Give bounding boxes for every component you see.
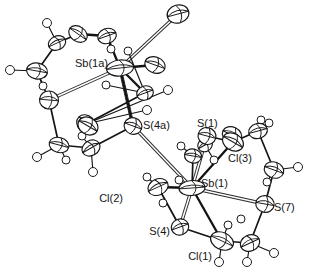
atom-label-s4: S(4)	[149, 225, 170, 237]
ortep-structure-diagram: Sb(1a)S(4a)S(1)Cl(3)Sb(1)S(7)Cl(2)S(4)Cl…	[0, 0, 312, 279]
atom-label-s7: S(7)	[274, 201, 295, 213]
hydrogen-atom	[263, 178, 271, 186]
atom-label-s1: S(1)	[197, 117, 218, 129]
hydrogen-atom	[294, 163, 303, 172]
hydrogen-atom	[62, 156, 70, 164]
hydrogen-atom	[6, 66, 15, 75]
hydrogen-atom	[102, 81, 110, 89]
hydrogen-atom	[224, 221, 232, 229]
ortep-figure-canvas: Sb(1a)S(4a)S(1)Cl(3)Sb(1)S(7)Cl(2)S(4)Cl…	[0, 0, 312, 279]
hydrogen-atom	[159, 199, 167, 207]
hydrogen-atom	[175, 176, 183, 184]
figure-background	[0, 0, 312, 279]
atom-label-cl1: Cl(1)	[188, 250, 212, 262]
atom-label-cl3: Cl(3)	[228, 152, 252, 164]
hydrogen-atom	[43, 19, 52, 28]
hydrogen-atom	[143, 106, 152, 115]
hydrogen-atom	[243, 258, 252, 267]
hydrogen-atom	[177, 142, 185, 150]
hydrogen-atom	[164, 86, 173, 95]
atom-label-cl2: Cl(2)	[99, 192, 123, 204]
hydrogen-atom	[39, 82, 47, 90]
hydrogen-atom	[210, 156, 218, 164]
hydrogen-atom	[33, 153, 42, 162]
atom-label-sb1a: Sb(1a)	[75, 57, 108, 69]
hydrogen-atom	[107, 45, 115, 53]
hydrogen-atom	[237, 215, 245, 223]
hydrogen-atom	[124, 47, 132, 55]
hydrogen-atom	[270, 249, 279, 258]
hydrogen-atom	[89, 168, 98, 177]
atom-label-sb1: Sb(1)	[201, 177, 228, 189]
hydrogen-atom	[143, 173, 151, 181]
atom-label-s4a: S(4a)	[143, 119, 170, 131]
hydrogen-atom	[215, 258, 224, 267]
